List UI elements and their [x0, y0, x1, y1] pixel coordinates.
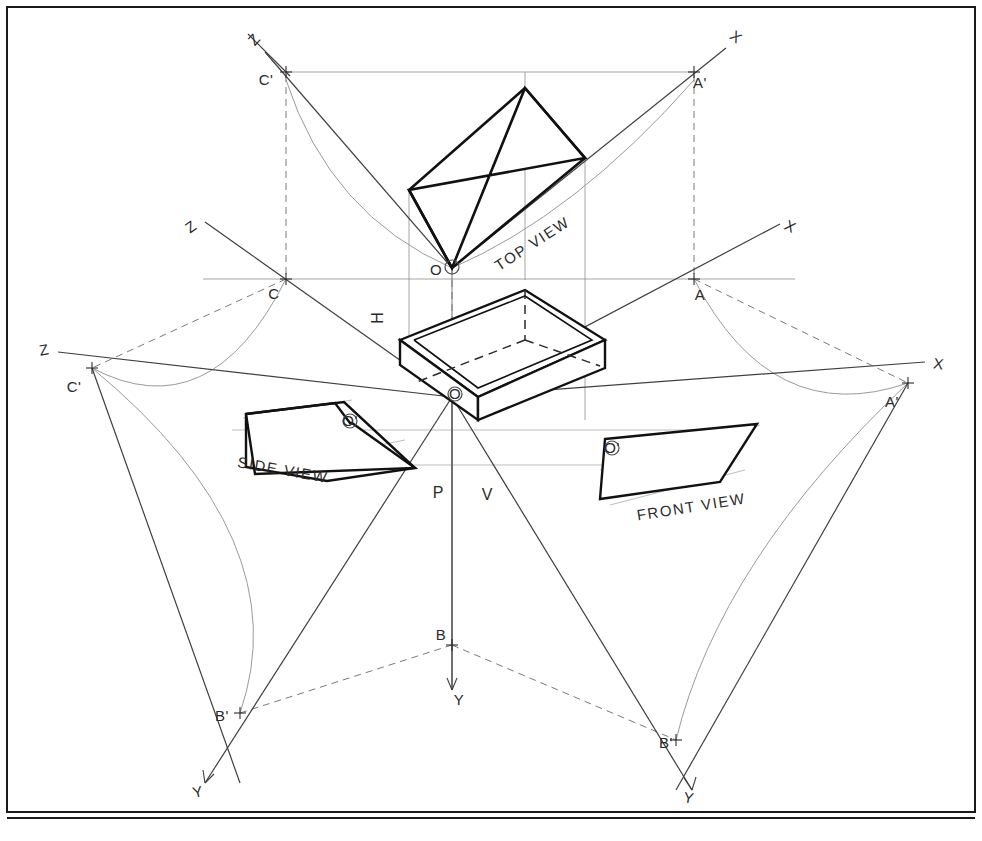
- dashed-b-to-bprime-right: [452, 645, 676, 740]
- tick-y-mid-a: [447, 678, 452, 690]
- technical-drawing-canvas: Z X Z X Z X Y Y Y C' A' O C A C' A' O O'…: [0, 0, 982, 841]
- dashed-a-to-aprime: [694, 279, 908, 383]
- axis-arrow-ticks: [203, 678, 696, 790]
- point-c-prime-left-label: C': [67, 378, 82, 395]
- point-c-prime-top-label: C': [259, 71, 274, 88]
- tick-y-left-a: [203, 770, 205, 783]
- point-b-mid-label: B: [436, 626, 447, 643]
- dashed-c-to-cprime: [92, 279, 286, 368]
- point-b-prime-right-label: B': [659, 734, 673, 751]
- point-a-prime-right-label: A': [885, 393, 899, 410]
- axis-x-far-right-label: X: [932, 354, 945, 372]
- front-view-shape: [600, 424, 765, 500]
- point-b-prime-left-label: B': [215, 707, 229, 724]
- point-a-mid-label: A: [695, 286, 706, 303]
- axis-y-bottom-right-label: Y: [682, 788, 695, 807]
- axis-label-group: Z X Z X Z X Y Y Y: [38, 27, 945, 807]
- axis-x-top-right-label: X: [727, 27, 746, 47]
- tick-c-prime-left: [86, 362, 98, 374]
- axis-x-mid-right-label: X: [782, 216, 799, 236]
- top-view-rect-outline: [409, 88, 585, 268]
- point-c-mid-label: C: [268, 285, 279, 302]
- h-plane-label: H: [369, 312, 386, 324]
- axis-z-far-left-label: Z: [38, 340, 50, 358]
- arc-a-top: [452, 80, 694, 268]
- top-view-shape: [409, 88, 585, 268]
- axis-y-bottom-left-label: Y: [191, 782, 205, 801]
- drawing-sheet: Z X Z X Z X Y Y Y C' A' O C A C' A' O O'…: [0, 0, 982, 841]
- axis-y-bottom-mid-label: Y: [454, 691, 465, 708]
- p-plane-label: P: [433, 484, 444, 501]
- front-view-label: FRONT VIEW: [636, 490, 747, 524]
- arc-c-left: [92, 279, 286, 386]
- isometric-box: [400, 290, 605, 420]
- point-o-prime-side-label: O': [342, 412, 358, 429]
- tick-y-mid-b: [452, 678, 457, 690]
- tick-c-mid: [280, 273, 292, 285]
- front-view-rect: [600, 424, 757, 499]
- point-a-prime-top-label: A': [693, 74, 707, 91]
- point-o-center-label: O: [449, 385, 461, 402]
- top-view-label: TOP VIEW: [491, 213, 572, 274]
- v-plane-label: V: [482, 486, 493, 503]
- tick-b-mid: [446, 639, 458, 651]
- tick-y-right-b: [692, 777, 696, 790]
- point-o-prime-front-label: O': [604, 439, 620, 456]
- top-view-rect-fill: [409, 88, 585, 268]
- point-o-top-label: O: [430, 261, 442, 278]
- axis-z-mid-left-label: Z: [182, 217, 200, 236]
- tick-a-mid: [688, 273, 700, 285]
- arc-b-left: [92, 368, 253, 713]
- tick-b-prime-left: [234, 707, 246, 719]
- axis-z-upper: [265, 52, 452, 268]
